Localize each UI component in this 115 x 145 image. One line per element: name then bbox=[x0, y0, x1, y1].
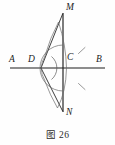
point-label-n: N bbox=[66, 108, 72, 118]
point-label-a: A bbox=[9, 55, 15, 65]
construction-arc-right-icon bbox=[58, 22, 67, 108]
point-label-b: B bbox=[96, 55, 102, 65]
construction-arc-upper-icon bbox=[45, 22, 59, 56]
point-label-c: C bbox=[67, 53, 73, 63]
figure-container: A D C B M N 图 26 bbox=[0, 0, 115, 145]
tick-mark-upper-icon bbox=[79, 48, 86, 54]
caption-text: 图 26 bbox=[46, 130, 70, 140]
construction-arc-lower-icon bbox=[45, 81, 58, 108]
tick-mark-lower-icon bbox=[79, 84, 86, 90]
point-label-d: D bbox=[28, 55, 35, 65]
geometry-drawing bbox=[0, 0, 115, 145]
figure-caption: 图 26 bbox=[0, 127, 115, 141]
segment-dm bbox=[41, 14, 63, 68]
point-label-m: M bbox=[66, 3, 74, 13]
